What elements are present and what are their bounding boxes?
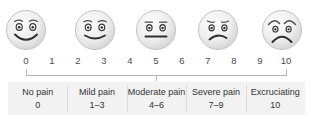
category-title: Moderate pain (127, 86, 186, 98)
scale-number-5: 5 (145, 54, 167, 67)
scale-axis (0, 68, 313, 80)
scale-number-4: 4 (119, 54, 141, 67)
category-title: Severe pain (186, 86, 245, 98)
axis-tick-0 (26, 69, 27, 76)
category-range: 7–9 (186, 99, 245, 111)
category-cell-moderate-pain: Moderate pain 4–6 (127, 82, 186, 115)
scale-number-2: 2 (67, 54, 89, 67)
face-moderate-pain-icon (134, 8, 178, 52)
face-severe-pain-icon (196, 8, 240, 52)
scale-number-8: 8 (223, 54, 245, 67)
scale-number-7: 7 (197, 54, 219, 67)
category-title: No pain (8, 86, 67, 98)
face-no-pain-icon (4, 8, 48, 52)
scale-number-10: 10 (275, 54, 297, 67)
face-excruciating-icon (260, 8, 304, 52)
pain-rating-scale: 0 1 2 3 4 5 6 7 8 9 10 No pain 0 Mild pa… (0, 0, 313, 119)
face-mild-pain-icon (73, 8, 117, 52)
scale-number-6: 6 (171, 54, 193, 67)
axis-tick-5 (156, 75, 157, 81)
scale-number-3: 3 (93, 54, 115, 67)
number-scale: 0 1 2 3 4 5 6 7 8 9 10 (0, 54, 313, 67)
category-title: Excruciating (246, 86, 305, 98)
scale-number-1: 1 (41, 54, 63, 67)
scale-number-0: 0 (15, 54, 37, 67)
category-range: 0 (8, 99, 67, 111)
category-title: Mild pain (67, 86, 126, 98)
faces-row (0, 8, 313, 54)
category-cell-mild-pain: Mild pain 1–3 (67, 82, 126, 115)
category-cell-excruciating: Excruciating 10 (246, 82, 305, 115)
scale-number-9: 9 (249, 54, 271, 67)
category-cell-severe-pain: Severe pain 7–9 (186, 82, 245, 115)
pain-category-table: No pain 0 Mild pain 1–3 Moderate pain 4–… (8, 82, 305, 115)
category-range: 1–3 (67, 99, 126, 111)
axis-tick-10 (286, 69, 287, 76)
category-range: 10 (246, 99, 305, 111)
category-range: 4–6 (127, 99, 186, 111)
category-cell-no-pain: No pain 0 (8, 82, 67, 115)
